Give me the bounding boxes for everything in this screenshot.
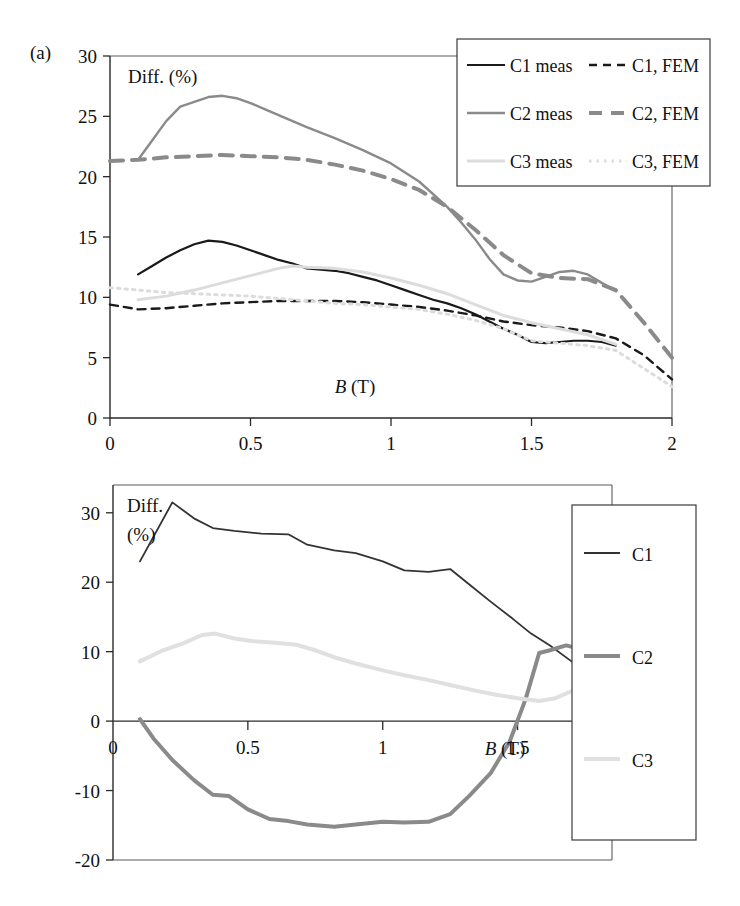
chart-a-legend-label: C2, FEM bbox=[632, 104, 699, 124]
chart-b-x-tick-label: 1 bbox=[378, 737, 388, 758]
chart-a-x-axis-title: B (T) bbox=[335, 376, 376, 398]
chart-a-y-tick-label: 0 bbox=[88, 408, 98, 429]
chart-a-x-tick-label: 1 bbox=[386, 433, 396, 454]
chart-b-series-c2 bbox=[140, 645, 599, 826]
chart-b-series-c1 bbox=[140, 502, 588, 674]
chart-a-x-tick-label: 2 bbox=[667, 433, 677, 454]
chart-b-x-axis-title: B (T) bbox=[485, 738, 526, 760]
chart-b-legend-label: C1 bbox=[632, 545, 653, 565]
chart-b-y-tick-label: -20 bbox=[75, 850, 100, 871]
chart-a-legend-label: C1 meas bbox=[510, 56, 573, 76]
chart-b-axis-titles: Diff.(%)B (T) bbox=[127, 495, 525, 760]
chart-b-y-axis-title-line2: (%) bbox=[127, 524, 155, 546]
chart-b-y-tick-label: 0 bbox=[91, 711, 101, 732]
chart-a-x-tick-label: 0 bbox=[105, 433, 115, 454]
chart-a-y-axis-title: Diff. (%) bbox=[128, 66, 197, 88]
chart-a-legend-label: C1, FEM bbox=[632, 56, 699, 76]
chart-a-x-tick-label: 1.5 bbox=[520, 433, 544, 454]
panel-a-label: (a) bbox=[30, 42, 51, 64]
chart-a-x-tick-label: 0.5 bbox=[239, 433, 263, 454]
chart-b-axes bbox=[106, 485, 612, 860]
chart-a-y-tick-label: 25 bbox=[78, 106, 97, 127]
chart-a-axis-titles: Diff. (%)B (T) bbox=[128, 66, 375, 398]
chart-a-y-tick-label: 15 bbox=[78, 227, 97, 248]
chart-a-y-tick-label: 20 bbox=[78, 167, 97, 188]
chart-b-svg: -20-10010203000.511.5 Diff.(%)B (T) C1C2… bbox=[0, 460, 740, 906]
figure-container: (a) 05101520253000.511.52 Diff. (%)B (T)… bbox=[0, 0, 740, 906]
chart-b-y-tick-label: 10 bbox=[81, 642, 100, 663]
chart-b-curves bbox=[140, 502, 604, 826]
chart-a-y-tick-label: 5 bbox=[88, 348, 98, 369]
chart-a-series-c3-fem bbox=[110, 288, 672, 387]
chart-panel-a: (a) 05101520253000.511.52 Diff. (%)B (T)… bbox=[0, 0, 740, 460]
chart-a-legend[interactable]: C1 measC1, FEMC2 measC2, FEMC3 measC3, F… bbox=[457, 39, 710, 186]
chart-b-y-tick-label: 20 bbox=[81, 572, 100, 593]
chart-b-y-tick-label: 30 bbox=[81, 503, 100, 524]
chart-a-y-tick-label: 10 bbox=[78, 287, 97, 308]
chart-b-legend[interactable]: C1C2C3 bbox=[572, 505, 696, 840]
chart-a-y-tick-label: 30 bbox=[78, 46, 97, 67]
chart-panel-b: (b) -20-10010203000.511.5 Diff.(%)B (T) … bbox=[0, 460, 740, 906]
chart-a-legend-label: C3 meas bbox=[510, 152, 573, 172]
chart-a-legend-label: C2 meas bbox=[510, 104, 573, 124]
chart-b-legend-label: C3 bbox=[632, 751, 653, 771]
chart-b-y-axis-title-line1: Diff. bbox=[127, 495, 163, 516]
chart-b-x-tick-label: 0.5 bbox=[236, 737, 260, 758]
chart-a-legend-label: C3, FEM bbox=[632, 152, 699, 172]
chart-b-legend-label: C2 bbox=[632, 648, 653, 668]
chart-a-svg: 05101520253000.511.52 Diff. (%)B (T) C1 … bbox=[0, 0, 740, 460]
chart-b-y-tick-label: -10 bbox=[75, 781, 100, 802]
chart-b-x-tick-label: 0 bbox=[108, 737, 118, 758]
